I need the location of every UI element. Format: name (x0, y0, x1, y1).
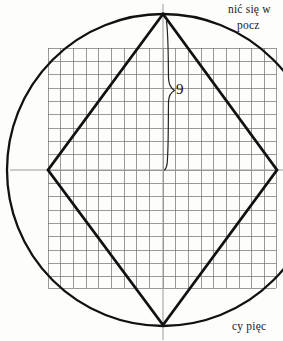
dimension-label-9: 9 (176, 81, 184, 98)
caption-top-right-line-1: nić się w (228, 3, 271, 15)
dimension-brace (165, 21, 175, 170)
grid-lines (48, 48, 276, 288)
figure-page: 9 nić się w pocz cy pięc (0, 0, 283, 341)
brace-path (165, 21, 175, 170)
geometry-figure (0, 0, 283, 341)
caption-bottom-right-line: cy pięc (232, 320, 266, 332)
caption-top-right-line-2: pocz (237, 19, 260, 31)
